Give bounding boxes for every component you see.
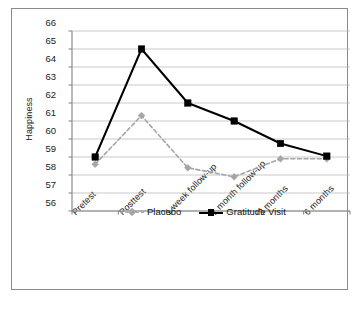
data-point-marker [92,154,98,160]
data-point-marker [277,140,283,146]
legend-swatch [199,208,223,217]
data-point-marker [324,153,330,159]
data-point-marker [277,155,284,162]
legend-label: Placebo [147,207,181,217]
data-point-marker [231,118,237,124]
legend-entry-placebo: Placebo [120,207,181,217]
data-point-marker [138,46,144,52]
chart-outer-frame: Happiness 6665646362616059585756 Pretest… [11,8,348,290]
chart-legend: PlaceboGratitude Visit [120,207,286,217]
legend-label: Gratitude Visit [226,207,286,217]
legend-marker-diamond [128,208,136,216]
legend-marker-square [208,209,215,216]
data-series-layer [92,46,330,180]
legend-swatch [120,208,144,217]
data-point-marker [231,173,238,180]
data-point-marker [185,100,191,106]
legend-entry-gratitude-visit: Gratitude Visit [199,207,286,217]
gridlines [72,31,350,211]
plot-canvas [12,9,361,314]
chart-figure: Happiness 6665646362616059585756 Pretest… [0,0,361,314]
